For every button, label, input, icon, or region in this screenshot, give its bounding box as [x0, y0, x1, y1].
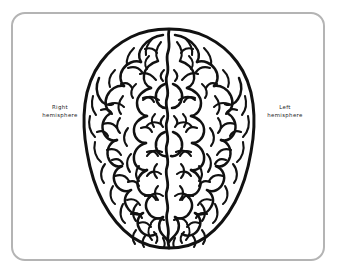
- brain-superior-view-illustration: [79, 24, 259, 252]
- label-left-hemisphere-line1: Left: [250, 103, 320, 111]
- label-left-hemisphere: Left hemisphere: [250, 103, 320, 120]
- figure-plate: Right hemisphere Left hemisphere: [0, 0, 338, 275]
- brain-svg: [79, 24, 259, 252]
- figure-root: Right hemisphere Left hemisphere: [0, 0, 338, 275]
- label-left-hemisphere-line2: hemisphere: [250, 111, 320, 119]
